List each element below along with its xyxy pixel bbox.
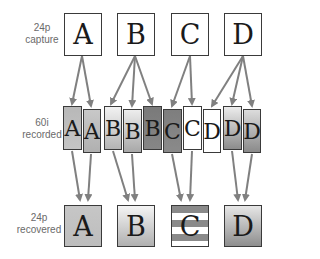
arrow (232, 151, 238, 200)
arrow (132, 154, 135, 200)
frame-letter: D (224, 116, 242, 141)
arrow (132, 56, 135, 106)
frame-letter: C (164, 119, 181, 144)
frame-letter: C (180, 211, 201, 242)
frame-letter: B (124, 119, 140, 144)
frame-letter: C (184, 116, 201, 141)
arrow (190, 56, 192, 104)
arrow (111, 56, 135, 104)
frame-letter: D (203, 119, 221, 144)
arrow (72, 56, 82, 104)
frame-letter: B (105, 116, 121, 141)
arrow (243, 56, 252, 106)
arrow (72, 151, 80, 200)
capture-frame-c: C (171, 13, 209, 56)
recorded-field-a-1: A (63, 106, 82, 150)
recorded-field-b-5: B (143, 106, 162, 150)
recovered-frame-c: C (171, 205, 209, 247)
arrow (113, 151, 128, 200)
recovered-frame-a: A (64, 205, 102, 247)
capture-frame-b: B (117, 13, 155, 56)
recorded-field-c-7: C (183, 106, 202, 150)
recorded-field-d-9: D (223, 106, 242, 150)
arrow (172, 56, 190, 106)
frame-letter: D (232, 211, 254, 242)
recovered-frame-b: B (117, 205, 155, 247)
frame-letter: B (126, 19, 146, 50)
frame-letter: D (243, 119, 261, 144)
arrow (212, 56, 243, 106)
arrow (172, 154, 181, 200)
recorded-field-a-2: A (83, 109, 101, 153)
frame-letter: A (65, 116, 81, 141)
arrow (190, 151, 192, 200)
recovered-frame-d: D (224, 205, 262, 247)
capture-frame-a: A (64, 13, 102, 56)
frame-letter: A (84, 119, 100, 144)
arrow (82, 56, 91, 106)
arrow (245, 154, 252, 200)
frame-letter: A (73, 19, 93, 50)
arrow (88, 154, 91, 200)
frame-letter: D (232, 19, 254, 50)
recorded-field-b-3: B (104, 106, 122, 150)
capture-frame-d: D (224, 13, 262, 56)
recorded-field-d-10: D (243, 109, 261, 153)
frame-letter: C (180, 19, 201, 50)
recorded-field-b-4: B (123, 109, 142, 153)
frame-letter: A (73, 211, 93, 242)
recorded-field-c-6: C (163, 109, 182, 153)
frame-letter: B (126, 211, 146, 242)
arrow (135, 56, 152, 104)
frame-letter: B (144, 116, 160, 141)
recorded-field-d-8: D (203, 109, 221, 153)
